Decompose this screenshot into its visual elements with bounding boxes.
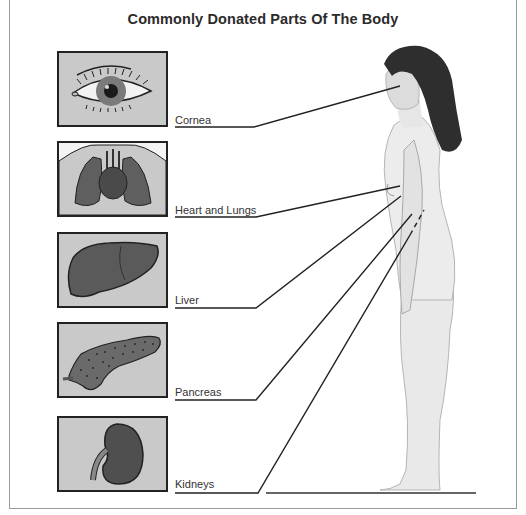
figure-and-leader-lines [0, 0, 526, 515]
human-figure [380, 46, 462, 490]
